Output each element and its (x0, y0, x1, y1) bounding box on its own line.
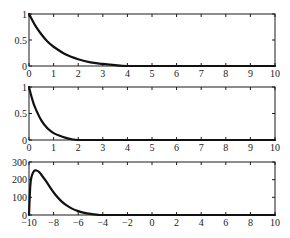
x-tick-label: −6 (73, 217, 84, 228)
x-tick-label: 0 (150, 217, 155, 228)
series-line-1 (29, 170, 275, 215)
x-tick-label: 4 (199, 217, 204, 228)
y-tick-label: 0 (22, 135, 27, 146)
series-line-1 (29, 14, 275, 66)
subplot-3: −10−8−6−4−202468100100200300 (12, 157, 280, 229)
x-tick-label: 6 (223, 217, 228, 228)
y-tick-label: 0 (22, 61, 27, 72)
y-tick-label: 0.5 (15, 108, 28, 119)
y-tick-label: 100 (12, 192, 27, 203)
axes-frame (29, 14, 275, 66)
x-tick-label: 6 (174, 68, 179, 79)
subplot-1: 01234567891000.51 (15, 9, 281, 80)
x-tick-label: 5 (150, 68, 155, 79)
x-tick-label: 5 (150, 142, 155, 153)
x-tick-label: −8 (48, 217, 59, 228)
x-tick-label: 0 (27, 142, 32, 153)
axes-frame (29, 87, 275, 140)
x-tick-label: 2 (174, 217, 179, 228)
x-tick-label: 1 (51, 142, 56, 153)
x-tick-label: 9 (248, 68, 253, 79)
x-tick-label: 4 (125, 142, 130, 153)
y-tick-label: 300 (12, 157, 27, 168)
chart-figure: 01234567891000.5101234567891000.51−10−8−… (0, 0, 290, 238)
y-tick-label: 0 (22, 210, 27, 221)
x-tick-label: 2 (76, 142, 81, 153)
x-tick-label: 8 (223, 142, 228, 153)
series-line-1 (29, 87, 275, 140)
x-tick-label: 10 (270, 217, 280, 228)
x-tick-label: 9 (248, 142, 253, 153)
y-tick-label: 200 (12, 174, 27, 185)
x-tick-label: 6 (174, 142, 179, 153)
y-tick-label: 1 (22, 82, 27, 93)
x-tick-label: 0 (27, 68, 32, 79)
x-tick-label: 1 (51, 68, 56, 79)
x-tick-label: 7 (199, 68, 204, 79)
x-tick-label: 10 (270, 142, 280, 153)
x-tick-label: −2 (122, 217, 133, 228)
x-tick-label: 7 (199, 142, 204, 153)
x-tick-label: 8 (248, 217, 253, 228)
x-tick-label: 10 (270, 68, 280, 79)
x-tick-label: 4 (125, 68, 130, 79)
x-tick-label: 8 (223, 68, 228, 79)
axes-frame (29, 162, 275, 215)
x-tick-label: −4 (97, 217, 108, 228)
subplot-2: 01234567891000.51 (15, 82, 281, 154)
y-tick-label: 1 (22, 9, 27, 20)
x-tick-label: 3 (100, 68, 105, 79)
y-tick-label: 0.5 (15, 35, 28, 46)
x-tick-label: 2 (76, 68, 81, 79)
x-tick-label: 3 (100, 142, 105, 153)
